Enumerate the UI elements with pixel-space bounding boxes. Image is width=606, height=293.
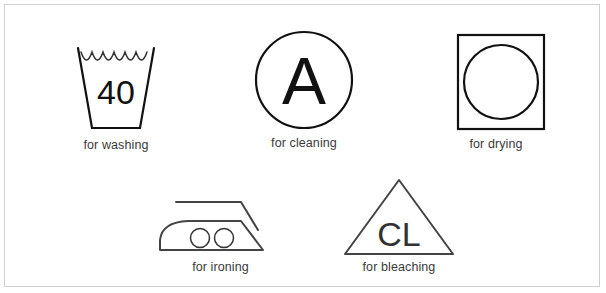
bleach-code: CL — [377, 215, 420, 253]
dry-clean-code: A — [282, 44, 326, 118]
laundry-symbols-chart: 40 for washing A for cleaning for drying — [0, 0, 606, 293]
symbol-washing: 40 for washing — [46, 44, 186, 152]
symbol-bleaching: CL for bleaching — [333, 176, 465, 274]
iron-icon — [158, 196, 283, 258]
iron-dot-2 — [215, 229, 234, 248]
wash-tub-icon: 40 — [64, 44, 168, 136]
caption-washing: for washing — [83, 139, 148, 152]
symbol-drying: for drying — [430, 31, 562, 151]
iron-dot-1 — [191, 229, 210, 248]
caption-cleaning: for cleaning — [271, 137, 337, 150]
caption-drying: for drying — [469, 138, 522, 151]
wash-temperature-value: 40 — [97, 73, 135, 111]
symbol-cleaning: A for cleaning — [238, 28, 370, 150]
dry-clean-circle-icon: A — [252, 28, 356, 134]
caption-ironing: for ironing — [192, 261, 249, 274]
bleach-triangle-icon: CL — [341, 176, 457, 258]
caption-bleaching: for bleaching — [363, 261, 436, 274]
tumble-dry-square-icon — [442, 31, 550, 135]
symbol-ironing: for ironing — [148, 196, 293, 274]
